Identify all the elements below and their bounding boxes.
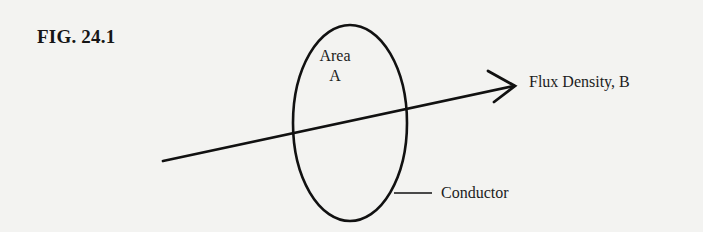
area-label: Area A	[312, 46, 358, 86]
flux-diagram	[0, 0, 703, 232]
flux-arrow-shaft	[163, 86, 514, 161]
area-label-word: Area	[312, 46, 358, 66]
area-label-symbol: A	[312, 66, 358, 86]
conductor-label: Conductor	[441, 184, 509, 202]
flux-density-label: Flux Density, B	[529, 73, 630, 91]
